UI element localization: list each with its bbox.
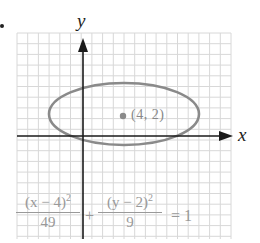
fraction-bar (98, 212, 162, 213)
center-point-label: (4, 2) (131, 107, 164, 123)
term-y-numerator: (y − 2) (107, 194, 148, 210)
equation-term-y: (y − 2)2 9 (98, 192, 162, 231)
term-y-exponent: 2 (148, 192, 153, 203)
equation-term-x: (x − 4)2 49 (16, 192, 80, 231)
term-x-denominator: 49 (16, 214, 80, 231)
ellipse-graph-figure: y x (4, 2) (x − 4)2 49 + (y − 2)2 9 = 1 (0, 0, 260, 243)
term-y-denominator: 9 (98, 214, 162, 231)
plus-sign: + (85, 207, 94, 225)
x-axis-label: x (238, 124, 246, 146)
equals-one: = 1 (171, 207, 192, 225)
y-axis-label: y (77, 10, 85, 32)
fraction-bar (16, 212, 80, 213)
term-x-numerator: (x − 4) (25, 194, 66, 210)
center-point (120, 113, 126, 119)
term-x-exponent: 2 (66, 192, 71, 203)
y-axis-arrow-icon (78, 38, 88, 52)
